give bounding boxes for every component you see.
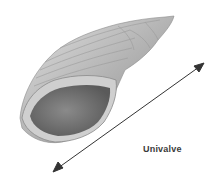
arrowhead-up-icon xyxy=(194,63,204,72)
diagram-canvas: Univalve xyxy=(0,0,215,181)
shell-illustration xyxy=(0,0,215,181)
arrowhead-down-icon xyxy=(53,162,63,172)
univalve-label: Univalve xyxy=(143,144,182,154)
